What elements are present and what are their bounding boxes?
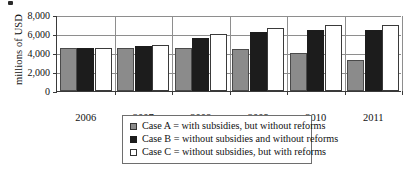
bar-chart-figure: millions of USD 02,0004,0006,0008,000200… bbox=[0, 0, 418, 172]
bar-group bbox=[345, 16, 403, 91]
x-axis-tick bbox=[115, 91, 116, 95]
legend-item-label: Case C = without subsidies, but with ref… bbox=[142, 147, 326, 157]
category-separator bbox=[230, 16, 231, 91]
bar-series-c-2008 bbox=[210, 34, 227, 91]
x-axis-label-2006: 2006 bbox=[57, 112, 115, 123]
y-axis-tick-label: 8,000 bbox=[28, 11, 51, 21]
y-axis-tick-label: 4,000 bbox=[28, 49, 51, 59]
y-axis-title: millions of USD bbox=[13, 7, 24, 93]
legend-swatch-icon bbox=[130, 136, 137, 143]
bar-group bbox=[57, 16, 115, 91]
x-axis-tick bbox=[230, 91, 231, 95]
bar-series-c-2009 bbox=[267, 28, 284, 91]
legend-item-series-a[interactable]: Case A = with subsidies, but without ref… bbox=[130, 120, 304, 133]
bar-series-a-2007 bbox=[117, 48, 134, 91]
category-separator bbox=[115, 16, 116, 91]
bar-series-a-2011 bbox=[347, 60, 364, 91]
bar-series-a-2006 bbox=[60, 48, 77, 91]
legend-item-label: Case B = without subsidies and without r… bbox=[142, 134, 338, 144]
bar-series-b-2009 bbox=[250, 32, 267, 91]
legend-swatch-icon bbox=[130, 149, 137, 156]
legend-item-series-b[interactable]: Case B = without subsidies and without r… bbox=[130, 133, 304, 146]
bar-series-b-2006 bbox=[77, 48, 94, 91]
bar-series-b-2008 bbox=[192, 38, 209, 91]
y-axis-tick bbox=[53, 92, 57, 93]
bar-series-a-2008 bbox=[175, 48, 192, 91]
x-axis-tick bbox=[402, 91, 403, 95]
bar-series-b-2011 bbox=[365, 30, 382, 91]
y-axis-tick-label: 0 bbox=[45, 87, 50, 97]
y-axis-tick-label: 6,000 bbox=[28, 30, 51, 40]
bar-series-a-2010 bbox=[290, 53, 307, 91]
x-axis-tick bbox=[172, 91, 173, 95]
category-separator bbox=[287, 16, 288, 91]
x-axis-tick bbox=[345, 91, 346, 95]
chart-legend: Case A = with subsidies, but without ref… bbox=[122, 115, 312, 164]
plot-area: 02,0004,0006,0008,0002006200720082009201… bbox=[56, 16, 401, 92]
bar-group bbox=[172, 16, 230, 91]
category-separator bbox=[172, 16, 173, 91]
bar-series-b-2007 bbox=[135, 46, 152, 91]
y-axis-tick-label: 2,000 bbox=[28, 68, 51, 78]
bar-group bbox=[230, 16, 288, 91]
bar-series-b-2010 bbox=[307, 30, 324, 91]
bar-group bbox=[115, 16, 173, 91]
x-axis-tick bbox=[287, 91, 288, 95]
plot-right-edge bbox=[402, 16, 403, 91]
scan-artifact-speck bbox=[8, 1, 13, 5]
bar-series-a-2009 bbox=[232, 49, 249, 91]
legend-swatch-icon bbox=[130, 123, 137, 130]
x-axis-label-2011: 2011 bbox=[345, 112, 403, 123]
bar-series-c-2011 bbox=[382, 25, 399, 92]
bar-series-c-2010 bbox=[325, 25, 342, 92]
bar-group bbox=[287, 16, 345, 91]
category-separator bbox=[345, 16, 346, 91]
bar-series-c-2007 bbox=[152, 45, 169, 91]
bar-series-c-2006 bbox=[95, 48, 112, 91]
legend-item-label: Case A = with subsidies, but without ref… bbox=[142, 121, 325, 131]
legend-item-series-c[interactable]: Case C = without subsidies, but with ref… bbox=[130, 146, 304, 159]
